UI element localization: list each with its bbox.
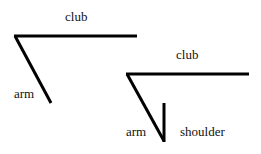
figure2-arm-label: arm xyxy=(126,125,146,138)
figure1-arm-label: arm xyxy=(14,87,34,100)
figure2-shoulder-label: shoulder xyxy=(180,125,225,138)
figure2-club-label: club xyxy=(176,48,198,61)
diagram-canvas: club arm club arm shoulder xyxy=(0,0,261,154)
figure1-club-label: club xyxy=(65,10,87,23)
